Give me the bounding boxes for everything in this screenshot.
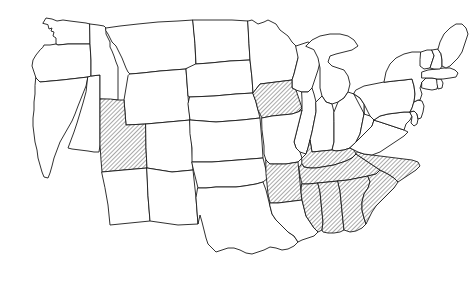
state-north-dakota[interactable]: [193, 20, 250, 64]
state-colorado[interactable]: [146, 120, 193, 172]
state-rhode-island[interactable]: [437, 79, 443, 89]
us-states-map: [0, 0, 472, 292]
state-oregon[interactable]: [32, 44, 91, 82]
state-wyoming[interactable]: [124, 69, 190, 125]
state-nebraska[interactable]: [188, 93, 260, 122]
state-kansas[interactable]: [190, 118, 263, 162]
state-arizona[interactable]: [102, 168, 150, 225]
state-connecticut[interactable]: [422, 78, 438, 90]
map-container: United States choropleth map Outline map…: [0, 0, 472, 292]
state-montana[interactable]: [106, 20, 196, 74]
state-layer: [32, 18, 468, 254]
state-maine[interactable]: [438, 24, 468, 68]
state-south-dakota[interactable]: [186, 60, 253, 97]
state-new-mexico[interactable]: [147, 168, 198, 225]
state-washington[interactable]: [43, 18, 90, 45]
state-arkansas[interactable]: [266, 160, 302, 203]
